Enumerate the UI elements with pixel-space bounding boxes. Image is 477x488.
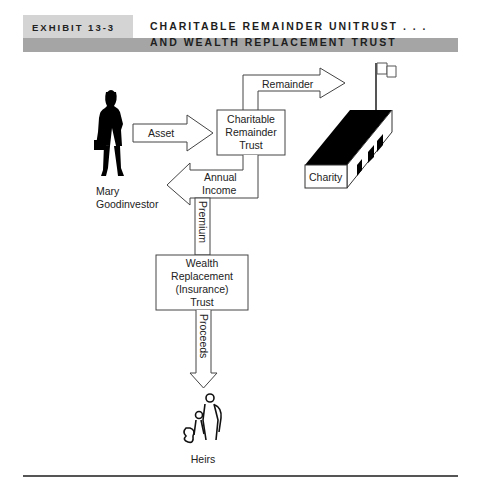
heirs-label: Heirs	[191, 453, 216, 465]
wrt-label-line-4: Trust	[190, 296, 214, 308]
crt-label-line-2: Remainder	[225, 126, 277, 138]
annual-income-label-line-2: Income	[202, 184, 237, 196]
remainder-flow-label: Remainder	[262, 78, 314, 90]
wrt-label-line-1: Wealth	[186, 257, 219, 269]
investor-name-line-2: Goodinvestor	[96, 198, 159, 210]
charitable-remainder-trust-box: Charitable Remainder Trust	[217, 110, 285, 155]
trust-flow-diagram: Mary Goodinvestor Asset Remainder Charit…	[0, 0, 477, 488]
premium-flow-label: Premium	[197, 201, 209, 243]
investor-name-line-1: Mary	[96, 185, 120, 197]
annual-income-arrow: Annual Income	[167, 155, 258, 205]
crt-label-line-3: Trust	[239, 139, 263, 151]
wealth-replacement-trust-box: Wealth Replacement (Insurance) Trust	[156, 255, 248, 310]
wrt-label-line-3: (Insurance)	[175, 283, 228, 295]
charity-label: Charity	[309, 171, 343, 183]
proceeds-flow-label: Proceeds	[198, 314, 210, 358]
premium-connector: Premium	[195, 198, 210, 255]
annual-income-label-line-1: Annual	[204, 171, 237, 183]
family-icon	[184, 394, 221, 442]
asset-flow-label: Asset	[148, 127, 174, 139]
crt-label-line-1: Charitable	[227, 113, 275, 125]
wrt-label-line-2: Replacement	[171, 270, 233, 282]
remainder-arrow: Remainder	[243, 68, 345, 110]
woman-silhouette-icon	[94, 90, 124, 176]
proceeds-arrow: Proceeds	[190, 310, 217, 388]
bottom-rule	[23, 475, 458, 477]
asset-arrow: Asset	[133, 115, 213, 151]
